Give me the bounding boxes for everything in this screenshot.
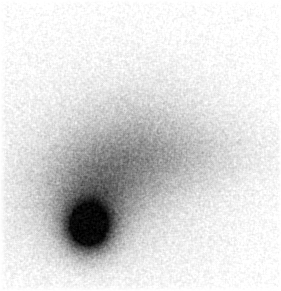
page bbox=[0, 0, 281, 291]
comet-canvas bbox=[0, 0, 281, 291]
comet-image bbox=[0, 0, 281, 291]
